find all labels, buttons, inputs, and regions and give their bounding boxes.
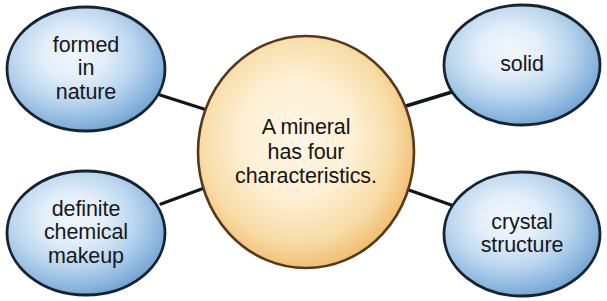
node-crystal-structure-shape[interactable] xyxy=(444,172,600,296)
node-formed-in-nature-shape[interactable] xyxy=(7,7,165,131)
diagram-canvas: formed in nature solid definite chemical… xyxy=(0,0,607,301)
connector-center-to-formed-in-nature xyxy=(160,95,207,110)
connector-center-to-solid xyxy=(406,92,452,106)
center-node-mineral-shape[interactable] xyxy=(198,36,414,268)
diagram-graphics xyxy=(0,0,607,301)
connector-center-to-definite-chemical-makeup xyxy=(161,187,207,204)
node-definite-chemical-makeup-shape[interactable] xyxy=(7,171,165,295)
connector-center-to-crystal-structure xyxy=(406,189,454,206)
node-solid-shape[interactable] xyxy=(444,5,600,125)
